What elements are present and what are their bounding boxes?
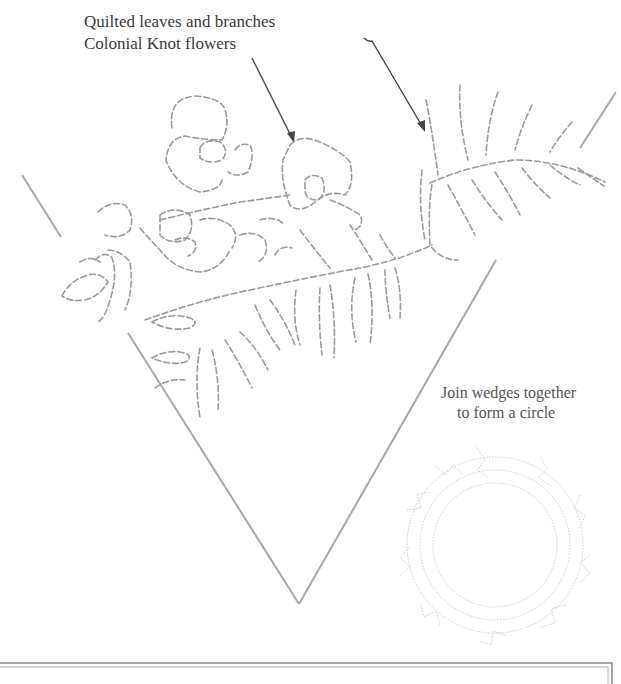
arrowhead-icon (417, 120, 425, 132)
callout-arrows (252, 38, 425, 143)
colonial-knot-label: Colonial Knot flowers (84, 33, 236, 55)
quilted-leaves-branches (145, 85, 605, 418)
join-instruction-line1: Join wedges together (441, 384, 576, 402)
quilt-pattern-page: Quilted leaves and branches Colonial Kno… (0, 0, 621, 684)
colonial-knot-flowers (62, 96, 362, 322)
page-frame (0, 663, 612, 684)
wreath-preview (400, 445, 590, 645)
wedge-outline (22, 92, 616, 604)
leaves-branches-label: Quilted leaves and branches (84, 11, 275, 33)
pattern-drawing (0, 0, 621, 684)
join-instruction-line2: to form a circle (457, 404, 555, 422)
